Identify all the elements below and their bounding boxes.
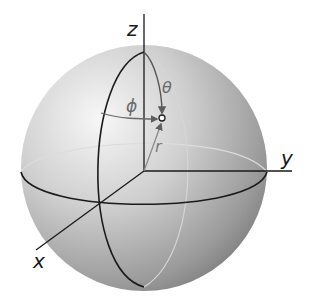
point-marker bbox=[159, 115, 165, 121]
theta-label: θ bbox=[162, 78, 172, 97]
spherical-coordinates-diagram: z y x θ ϕ r bbox=[0, 0, 316, 301]
x-axis-label: x bbox=[32, 249, 45, 273]
phi-label: ϕ bbox=[126, 96, 137, 116]
y-axis-label: y bbox=[280, 146, 294, 170]
z-axis-label: z bbox=[126, 17, 138, 41]
